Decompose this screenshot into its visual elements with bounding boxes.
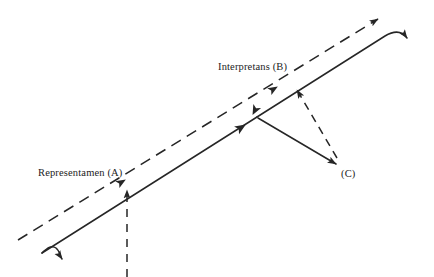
label-interpretans: Interpretans (B) [218, 62, 287, 73]
solid-lower-run [42, 117, 257, 253]
junction-to-object-path [258, 118, 336, 164]
object-to-interpretans-path [297, 90, 337, 158]
edge-object-to-interpretans [297, 90, 337, 158]
semiosis-diagram-svg [0, 0, 434, 277]
arrowhead-dashed-at-interpretans [267, 83, 280, 95]
edge-dashed-main-diagonal [18, 19, 378, 240]
arrowhead-solid-at-junction [234, 121, 248, 135]
diagram-canvas: Representamen (A) Interpretans (B) (C) [0, 0, 434, 277]
edge-junction-to-object [258, 118, 336, 164]
solid-start-curl [42, 247, 62, 259]
label-object: (C) [341, 169, 355, 180]
dashed-diagonal-path [18, 19, 378, 240]
label-representamen: Representamen (A) [38, 168, 122, 179]
solid-upper-run-and-curl [257, 32, 407, 117]
